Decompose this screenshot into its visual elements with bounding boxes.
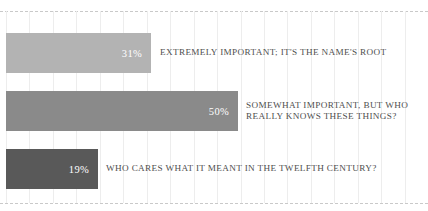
bar-segment-2[interactable]: 19% [6,149,98,189]
bar-segment-1[interactable]: 50% [6,91,238,131]
bar-row: 50% SOMEWHAT IMPORTANT, BUT WHO REALLY K… [0,91,428,131]
bars-container: 31% EXTREMELY IMPORTANT; IT'S THE NAME'S… [0,0,428,211]
bar-row: 31% EXTREMELY IMPORTANT; IT'S THE NAME'S… [0,33,428,73]
bar-category-label-2: WHO CARES WHAT IT MEANT IN THE TWELFTH C… [106,149,377,189]
bar-value-label-2: 19% [69,164,98,175]
bar-category-label-0: EXTREMELY IMPORTANT; IT'S THE NAME'S ROO… [160,33,387,73]
bar-value-label-1: 50% [209,106,238,117]
bar-chart: 31% EXTREMELY IMPORTANT; IT'S THE NAME'S… [0,0,428,211]
bar-row: 19% WHO CARES WHAT IT MEANT IN THE TWELF… [0,149,428,189]
bar-category-label-1: SOMEWHAT IMPORTANT, BUT WHO REALLY KNOWS… [246,91,408,131]
bar-value-label-0: 31% [122,48,151,59]
bar-segment-0[interactable]: 31% [6,33,151,73]
